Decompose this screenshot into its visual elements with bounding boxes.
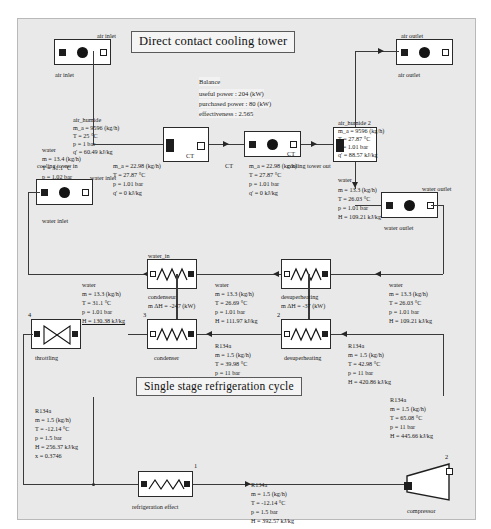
label-cooling-tower-out: cooling tower out [287,162,331,170]
stream-water-mid-name: water [215,281,229,289]
sensor-port-in [401,49,408,56]
state-number-4: 4 [28,311,31,318]
stream-air-humide-1-l3: p = 1 bar [73,140,95,148]
stream-r134a-desup-l4: H = 420.86 kJ/kg [348,378,391,386]
stream-ct-right-l3: p = 1.01 bar [249,180,279,188]
label-throttling: throttling [35,354,58,362]
stream-r134a-throttle-l2: T = -12.14 °C [35,425,69,433]
wire-air-out-up [355,51,356,127]
hx-pin-in [150,331,156,337]
label-water-inlet-tag2: water inlet [42,217,68,225]
wire-r134a-cond-out [128,334,147,335]
stream-r134a-evap-name: R134a [251,481,267,489]
title-cooling-tower: Direct contact cooling tower [131,31,295,53]
stream-air-humide-1-l2: T = 25 °C [73,132,98,140]
stream-air-humide-2-l2: T = 27.87 °C [338,135,370,143]
balance-heading: Balance [199,77,220,86]
sensor-indicator [77,47,88,58]
ct-pin-out [197,142,205,150]
sensor-indicator [404,200,415,211]
label-desuperheating-duty-name: desuperheating [281,293,318,301]
label-refrigeration-effect: refrigeration effect [132,503,178,511]
arrow-air-out [378,48,384,54]
sensor-water-inlet[interactable] [36,179,93,205]
stream-water-mid-l1: m = 13.3 (kg/h) [215,290,254,298]
stream-r134a-cond-l1: m = 1.5 (kg/h) [215,351,251,359]
stream-water-right-l2: T = 26.03 °C [389,299,421,307]
label-cooling-tower-in: cooling tower in [37,162,78,170]
wire-throttle-down [23,334,24,484]
stream-water-right-l4: H = 109.21 kJ/kg [389,317,432,325]
stream-r134a-comp-name: R134a [390,396,406,404]
wire-r134a-right-down [443,334,444,396]
component-refrigeration-effect[interactable] [138,471,193,497]
stream-r134a-evap-l4: H = 392.57 kJ/kg [251,517,294,525]
sensor-air-outlet[interactable] [396,39,453,65]
component-water-desuperheating[interactable] [281,259,331,289]
stream-r134a-desup-name: R134a [348,342,364,350]
compressor-port-out [446,468,453,475]
component-condenser[interactable] [147,319,197,349]
label-air-inlet-tag: air inlet [55,71,74,79]
sensor-air-inlet[interactable] [54,39,111,65]
wire-water-return [348,274,443,275]
wire-water-outlet-right-down [443,205,444,274]
stream-r134a-throttle-l3: p = 1.5 bar [35,434,62,442]
stream-r134a-desup-l1: m = 1.5 (kg/h) [348,351,384,359]
sensor-port-in [41,189,48,196]
valve-pin-in [34,331,40,337]
arrow-r134a-desup [341,331,347,337]
hx-pin-in [284,331,290,337]
stream-r134a-cond-l2: T = 39.98 °C [215,360,247,368]
stream-ct-left-l4: q' = 0 kJ/kg [113,189,142,197]
stream-water-left-l1: m = 13.3 (kg/h) [82,290,121,298]
sensor-port-out [442,49,449,56]
stream-air-humide-2-l3: p = 1.01 bar [338,143,368,151]
label-air-inlet-top: air inlet [97,32,116,40]
component-water-in-condenser[interactable] [147,259,197,289]
stream-air-humide-1-name: air_humide [73,116,101,124]
stream-water-outlet-top-l1: m = 13.3 (kg/h) [338,186,377,194]
stream-ct-right-l4: q' = 0 kJ/kg [249,189,278,197]
arrow-water-mid [273,271,279,277]
label-air-outlet-top: air outlet [401,32,423,40]
wire-air-to-ct1 [93,144,163,145]
sensor-port-out [82,189,89,196]
coil-icon [149,477,185,493]
component-desuperheating[interactable] [281,319,331,349]
sensor-water-outlet[interactable] [381,192,438,218]
stream-r134a-comp-l2: T = 65.08 °C [390,414,422,422]
state-number-1: 1 [194,462,197,469]
component-compressor[interactable] [405,462,451,502]
hx-pin-in [284,271,290,277]
label-compressor: compressor [407,507,436,515]
stream-r134a-throttle-l1: m = 1.5 (kg/h) [35,416,71,424]
stream-water-mid-l4: H = 111.97 kJ/kg [215,317,258,325]
wire-water-outlet-right [431,205,443,206]
label-condenseur-overlap: condenseur [148,293,176,301]
wire-evap-to-compressor [193,484,405,485]
label-desuperheating: desuperheating [284,354,321,362]
stream-water-outlet-top-l4: H = 109.21 kJ/kg [338,213,381,221]
component-throttling[interactable] [31,319,81,349]
wire-r134a-desup-in [331,334,443,335]
label-condenser: condenser [154,354,179,362]
sensor-port-out [100,49,107,56]
balance-useful-power: useful power : 204 (kW) [199,89,264,98]
balance-purchased-power: purchased power : 80 (kW) [199,99,271,108]
state-number-2: 2 [277,311,280,318]
sensor-port-in [386,202,393,209]
stream-r134a-evap-l1: m = 1.5 (kg/h) [251,490,287,498]
wire-air-out-to-sensor [355,51,399,52]
coil-icon [157,266,190,284]
arrow-r134a-cond [206,331,212,337]
hx-pin-in [150,271,156,277]
sensor-indicator [267,139,278,150]
stream-r134a-evap-l2: T = -12.14 °C [251,499,285,507]
diagram-canvas: Direct contact cooling tower Balance use… [17,18,476,520]
wire-throttle-stub-up [93,397,94,484]
label-water-outlet-top: water outlet [422,185,451,193]
valve-pin-out [72,331,78,337]
stream-water-outlet-top-l3: p = 1.01 bar [338,204,368,212]
balance-effectiveness: effectiveness : 2.565 [199,109,253,118]
